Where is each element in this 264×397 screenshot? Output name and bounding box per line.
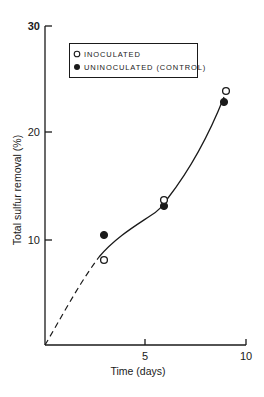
data-point-inoculated-day3 [101, 257, 108, 264]
y-tick-label-20: 20 [28, 126, 40, 138]
fit-curve-dashed [45, 257, 99, 345]
fit-curve-solid [99, 97, 224, 257]
legend-box [70, 44, 198, 78]
y-tick-label-30: 30 [28, 20, 40, 32]
legend-open-circle-icon [74, 51, 80, 57]
data-point-uninoculated-day9 [220, 98, 227, 105]
legend-label-inoculated: INOCULATED [84, 50, 141, 59]
sulfur-removal-chart: 30 20 10 5 10 Time (days) Total sulfur r… [0, 0, 264, 397]
data-point-uninoculated-day3 [100, 231, 107, 238]
series-uninoculated [100, 98, 227, 238]
x-axis-title: Time (days) [110, 365, 165, 377]
legend-filled-circle-icon [74, 64, 80, 70]
legend-label-uninoculated: UNINOCULATED (CONTROL) [84, 63, 206, 72]
y-tick-label-10: 10 [28, 234, 40, 246]
x-tick-label-10: 10 [240, 350, 252, 362]
data-point-inoculated-day6 [161, 197, 168, 204]
data-point-inoculated-day9 [223, 88, 230, 95]
x-tick-label-5: 5 [142, 350, 148, 362]
legend: INOCULATED UNINOCULATED (CONTROL) [70, 44, 207, 78]
y-axis-title: Total sulfur removal (%) [11, 135, 23, 245]
